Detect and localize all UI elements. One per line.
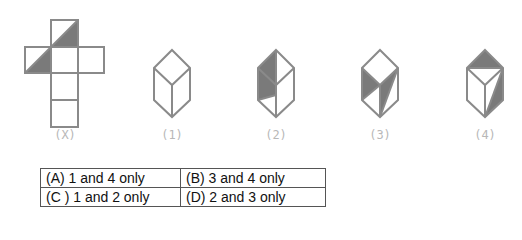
cube-3-shading [362,68,380,100]
cube-2 [258,50,294,117]
option-d[interactable]: (D) 2 and 3 only [181,188,326,207]
options-row: (C ) 1 and 2 only (D) 2 and 3 only [41,188,326,207]
option-c[interactable]: (C ) 1 and 2 only [41,188,181,207]
cube-3 [362,50,398,117]
option-a[interactable]: (A) 1 and 4 only [41,169,181,188]
options-row: (A) 1 and 4 only (B) 3 and 4 only [41,169,326,188]
cube-4-top-shading [467,50,503,68]
caption-2: (2) [256,128,296,142]
caption-3: (3) [360,128,400,142]
caption-x: (X) [45,128,85,142]
caption-1: (1) [152,128,192,142]
cube-1 [154,50,190,117]
option-b[interactable]: (B) 3 and 4 only [181,169,326,188]
cube-net-x [25,20,104,127]
caption-4: (4) [465,128,505,142]
answer-options-table: (A) 1 and 4 only (B) 3 and 4 only (C ) 1… [40,168,326,207]
cube-4 [467,50,503,117]
